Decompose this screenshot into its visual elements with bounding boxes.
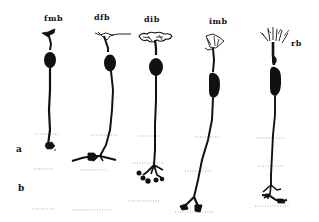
cell-dib	[137, 32, 173, 184]
label-dfb: dfb	[94, 13, 110, 21]
cell-dfb	[72, 32, 131, 161]
layer-boundary-lines	[32, 134, 290, 212]
label-fmb: fmb	[44, 14, 63, 22]
layer-label-a: a	[16, 145, 22, 154]
cell-fmb	[42, 29, 56, 151]
label-rb: rb	[291, 39, 302, 47]
label-dib: dib	[144, 15, 160, 23]
bipolar-cell-figure: fmb dfb dib imb rb a b	[0, 0, 319, 222]
cell-rb	[260, 27, 289, 203]
label-imb: imb	[209, 17, 228, 25]
neuron-drawings	[0, 0, 319, 222]
layer-label-b: b	[18, 184, 24, 193]
cell-imb	[180, 34, 224, 212]
